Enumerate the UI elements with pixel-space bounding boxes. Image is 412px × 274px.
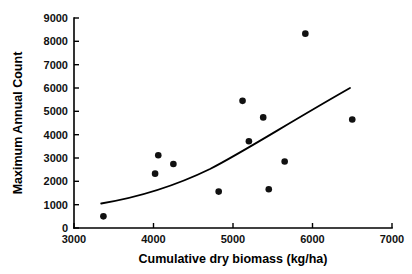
y-tick-label: 4000 [44, 129, 68, 141]
data-point [349, 116, 356, 123]
x-tick-label: 7000 [380, 233, 404, 245]
y-tick-label: 1000 [44, 199, 68, 211]
data-point [155, 152, 162, 159]
x-tick-label: 4000 [141, 233, 165, 245]
y-tick-label: 2000 [44, 175, 68, 187]
y-tick-label: 3000 [44, 152, 68, 164]
y-tick-label: 7000 [44, 59, 68, 71]
data-point [239, 98, 246, 105]
y-axis-title: Maximum Annual Count [11, 51, 25, 194]
y-tick-label: 5000 [44, 105, 68, 117]
data-point [302, 30, 309, 37]
x-tick-label: 5000 [221, 233, 245, 245]
x-axis-title: Cumulative dry biomass (kg/ha) [139, 252, 328, 266]
data-point [260, 114, 267, 121]
data-point [281, 158, 288, 165]
y-axis-tick-labels: 9000 8000 7000 6000 5000 4000 3000 2000 … [44, 12, 68, 234]
fitted-trend-curve [101, 88, 350, 204]
y-tick-label: 8000 [44, 35, 68, 47]
x-tick-label: 6000 [300, 233, 324, 245]
x-tick-label: 3000 [62, 233, 86, 245]
data-point [170, 161, 177, 168]
x-axis-tick-labels: 3000 4000 5000 6000 7000 [62, 233, 404, 245]
data-point [152, 170, 159, 177]
data-point [100, 213, 107, 220]
data-point [215, 188, 222, 195]
data-point [246, 138, 253, 145]
y-tick-label: 6000 [44, 82, 68, 94]
scatter-plot-svg: 9000 8000 7000 6000 5000 4000 3000 2000 … [0, 0, 412, 274]
data-point [265, 186, 272, 193]
y-tick-label: 9000 [44, 12, 68, 24]
chart-figure: 9000 8000 7000 6000 5000 4000 3000 2000 … [0, 0, 412, 274]
data-points-layer [100, 30, 355, 219]
